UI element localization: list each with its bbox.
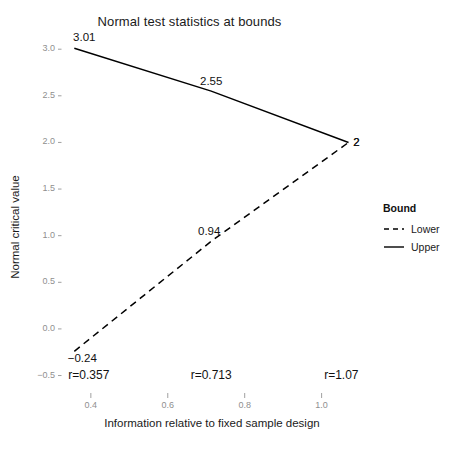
point-label: 2.55: [189, 75, 233, 87]
x-axis-title: Information relative to fixed sample des…: [62, 417, 362, 429]
r-annotation: r=1.07: [303, 368, 359, 382]
y-axis-title-text: Normal critical value: [9, 175, 21, 279]
x-tick-label: 0.8: [225, 400, 265, 410]
legend-item-label: Lower: [411, 223, 440, 235]
dashed-line-icon: [383, 223, 405, 235]
point-label: 3.01: [62, 31, 106, 43]
y-tick-label: 0.5: [42, 276, 55, 286]
y-tick-label: 3.0: [42, 43, 55, 53]
panel-background: [62, 38, 362, 383]
x-tick-label: 0.6: [148, 400, 188, 410]
solid-line-icon: [383, 241, 405, 253]
point-label: 2: [335, 136, 379, 148]
r-annotation: r=0.357: [68, 368, 124, 382]
y-tick-label: 2.5: [42, 90, 55, 100]
legend: Bound LowerUpper: [383, 202, 455, 257]
legend-item-lower[interactable]: Lower: [383, 221, 455, 237]
y-tick-label: 1.5: [42, 183, 55, 193]
legend-item-label: Upper: [411, 241, 440, 253]
r-annotation: r=0.713: [183, 368, 239, 382]
y-axis-title: Normal critical value: [6, 0, 24, 453]
legend-title: Bound: [383, 202, 455, 214]
y-tick-label: 2.0: [42, 136, 55, 146]
point-label: 0.94: [187, 225, 231, 237]
y-tick-label: −0.5: [37, 370, 55, 380]
x-tick-label: 0.4: [71, 400, 111, 410]
y-tick-label: 0.0: [42, 323, 55, 333]
point-label: −0.24: [60, 352, 104, 364]
chart-canvas: Normal test statistics at bounds Normal …: [0, 0, 457, 453]
y-tick-label: 1.0: [42, 230, 55, 240]
x-tick-label: 1.0: [302, 400, 342, 410]
legend-item-upper[interactable]: Upper: [383, 239, 455, 255]
